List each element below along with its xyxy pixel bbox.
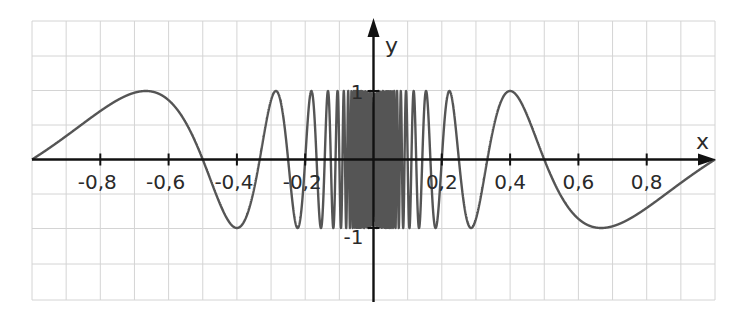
y-tick-label: -1 <box>344 225 364 249</box>
x-tick-label: -0,4 <box>214 170 253 194</box>
y-tick-label: 1 <box>351 80 364 104</box>
x-tick-label: 0,2 <box>426 170 458 194</box>
x-axis-label: x <box>696 129 709 154</box>
function-plot: -0,8-0,6-0,4-0,20,20,40,60,81-1 x y <box>0 0 741 317</box>
x-tick-label: -0,8 <box>78 170 117 194</box>
x-tick-label: -0,2 <box>283 170 322 194</box>
x-tick-label: 0,8 <box>631 170 663 194</box>
x-tick-label: 0,6 <box>562 170 594 194</box>
y-axis-label: y <box>385 33 398 58</box>
x-tick-label: 0,4 <box>494 170 526 194</box>
x-tick-label: -0,6 <box>146 170 185 194</box>
